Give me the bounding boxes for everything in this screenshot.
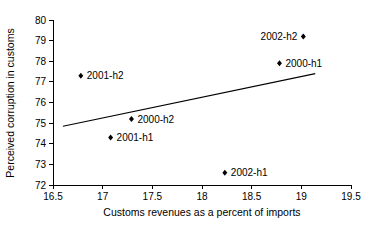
x-tick-label: 19.5 <box>341 191 361 202</box>
y-tick-label: 80 <box>35 15 47 26</box>
data-point-label: 2002-h1 <box>231 167 268 178</box>
x-tick-label: 17 <box>97 191 109 202</box>
x-axis-title: Customs revenues as a percent of imports <box>103 206 300 218</box>
y-tick-label: 74 <box>35 138 47 149</box>
data-point-marker <box>108 135 113 141</box>
data-point-marker <box>301 34 306 40</box>
x-tick-label: 19 <box>296 191 308 202</box>
y-axis-title: Perceived corruption in customs <box>4 28 16 177</box>
scatter-chart-figure: 727374757677787980 16.51717.51818.51919.… <box>0 0 383 228</box>
data-point-label: 2000-h1 <box>285 58 322 69</box>
data-point-series: 2001-h22001-h12000-h22002-h12000-h12002-… <box>78 31 322 178</box>
data-point-label: 2001-h1 <box>117 132 154 143</box>
data-point-label: 2002-h2 <box>261 31 298 42</box>
y-tick-label: 79 <box>35 35 47 46</box>
y-tick-label: 72 <box>35 180 47 191</box>
x-tick-label: 17.5 <box>143 191 163 202</box>
data-point-label: 2000-h2 <box>137 114 174 125</box>
axes-group <box>53 20 351 185</box>
y-tick-label: 75 <box>35 118 47 129</box>
y-tick-label: 78 <box>35 56 47 67</box>
data-point-marker <box>78 73 83 79</box>
y-axis-ticks: 727374757677787980 <box>35 15 53 191</box>
x-tick-label: 18 <box>196 191 208 202</box>
y-tick-label: 73 <box>35 159 47 170</box>
data-point-marker <box>277 60 282 66</box>
data-point-marker <box>222 170 227 176</box>
data-point-label: 2001-h2 <box>87 70 124 81</box>
plot-canvas: 727374757677787980 16.51717.51818.51919.… <box>0 0 383 228</box>
data-point-marker <box>129 116 134 122</box>
trend-line-group <box>63 74 315 127</box>
x-axis-ticks: 16.51717.51818.51919.5 <box>43 185 361 202</box>
x-tick-label: 16.5 <box>43 191 63 202</box>
trend-line <box>63 74 315 127</box>
x-tick-label: 18.5 <box>242 191 262 202</box>
y-tick-label: 76 <box>35 97 47 108</box>
y-tick-label: 77 <box>35 76 47 87</box>
